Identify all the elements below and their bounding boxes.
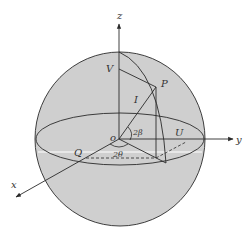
q-label: Q bbox=[74, 147, 82, 158]
x-axis-label: x bbox=[11, 179, 17, 190]
poincare-sphere-diagram: z y x o V P I U Q 2β 2θ bbox=[0, 0, 250, 237]
y-axis-label: y bbox=[235, 134, 242, 145]
u-label: U bbox=[175, 127, 184, 138]
z-axis-label: z bbox=[116, 10, 123, 21]
p-label: P bbox=[160, 78, 168, 89]
angle-beta-label: 2β bbox=[132, 128, 143, 137]
origin-label: o bbox=[110, 132, 116, 143]
angle-theta-label: 2θ bbox=[112, 150, 123, 159]
